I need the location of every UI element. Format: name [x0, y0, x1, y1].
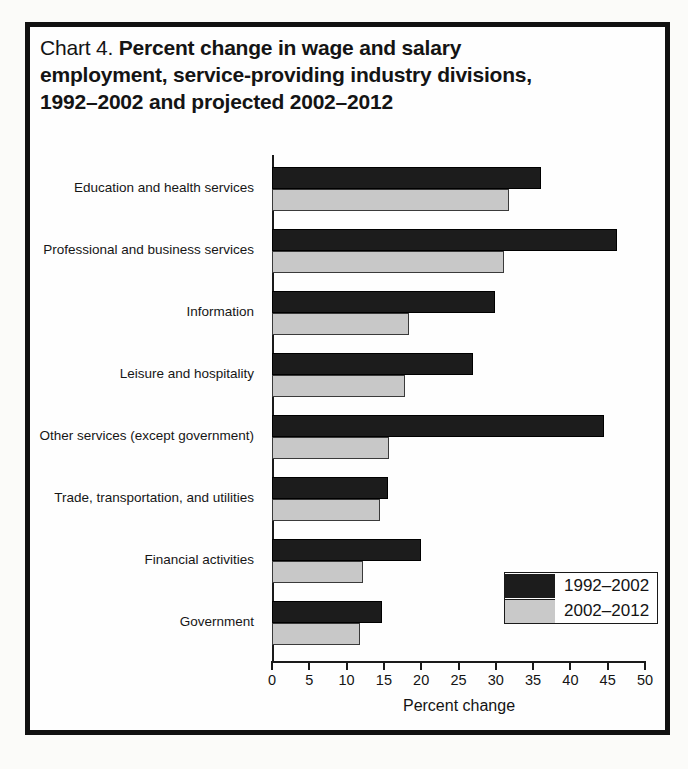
bar-series2 [272, 623, 360, 645]
bar-group [272, 353, 645, 397]
legend-label: 2002–2012 [555, 601, 657, 621]
chart-page: Chart 4. Percent change in wage and sala… [0, 0, 688, 769]
legend-label: 1992–2002 [555, 576, 657, 596]
bar-series2 [272, 251, 504, 273]
tick-label: 35 [525, 672, 541, 688]
bar-group [272, 477, 645, 521]
tick-label: 30 [488, 672, 504, 688]
legend-row: 2002–2012 [505, 598, 657, 623]
bar-group [272, 167, 645, 211]
tick-mark [346, 661, 348, 670]
x-axis-ticks: 05101520253035404550 [0, 661, 688, 701]
bar-series2 [272, 437, 389, 459]
tick-mark [420, 661, 422, 670]
tick-mark [569, 661, 571, 670]
tick-label: 0 [268, 672, 276, 688]
bar-series2 [272, 189, 509, 211]
bar-series1 [272, 229, 617, 251]
chart-legend: 1992–20022002–2012 [504, 572, 658, 624]
tick-label: 15 [376, 672, 392, 688]
bar-group [272, 415, 645, 459]
tick-label: 25 [450, 672, 466, 688]
tick-label: 40 [562, 672, 578, 688]
tick-mark [495, 661, 497, 670]
bar-group [272, 291, 645, 335]
legend-swatch-dark [505, 574, 555, 598]
tick-mark [308, 661, 310, 670]
tick-label: 50 [637, 672, 653, 688]
tick-label: 10 [339, 672, 355, 688]
category-label: Government [0, 614, 262, 629]
bar-series2 [272, 499, 380, 521]
category-label: Trade, transportation, and utilities [0, 490, 262, 505]
bar-series1 [272, 291, 495, 313]
bar-series1 [272, 167, 541, 189]
bar-series2 [272, 375, 405, 397]
bar-series1 [272, 477, 388, 499]
category-label: Education and health services [0, 180, 262, 195]
tick-mark [607, 661, 609, 670]
category-label: Professional and business services [0, 242, 262, 257]
bar-series1 [272, 353, 473, 375]
tick-mark [532, 661, 534, 670]
bar-group [272, 229, 645, 273]
bar-series2 [272, 313, 409, 335]
tick-mark [271, 661, 273, 670]
tick-label: 45 [600, 672, 616, 688]
x-axis-label: Percent change [272, 697, 646, 715]
legend-row: 1992–2002 [505, 573, 657, 598]
tick-mark [644, 661, 646, 670]
category-label: Other services (except government) [0, 428, 262, 443]
bar-series1 [272, 601, 382, 623]
bar-series1 [272, 415, 604, 437]
bar-series1 [272, 539, 421, 561]
bar-series2 [272, 561, 363, 583]
category-label: Information [0, 304, 262, 319]
tick-mark [458, 661, 460, 670]
tick-label: 20 [413, 672, 429, 688]
category-axis-labels: Education and health servicesProfessiona… [0, 0, 262, 769]
tick-label: 5 [305, 672, 313, 688]
category-label: Leisure and hospitality [0, 366, 262, 381]
legend-swatch-light [505, 599, 555, 623]
tick-mark [383, 661, 385, 670]
category-label: Financial activities [0, 552, 262, 567]
